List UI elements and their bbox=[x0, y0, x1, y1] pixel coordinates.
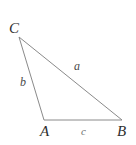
side-label-b: b bbox=[20, 76, 26, 88]
vertex-label-b: B bbox=[117, 124, 126, 139]
vertex-label-c: C bbox=[9, 21, 19, 36]
geometry-figure: C A B a b c bbox=[0, 0, 136, 145]
triangle-drawing bbox=[0, 0, 136, 145]
vertex-label-a: A bbox=[40, 124, 49, 139]
side-label-a: a bbox=[74, 60, 80, 72]
side-label-c: c bbox=[81, 126, 86, 137]
side-a-line bbox=[19, 37, 122, 120]
